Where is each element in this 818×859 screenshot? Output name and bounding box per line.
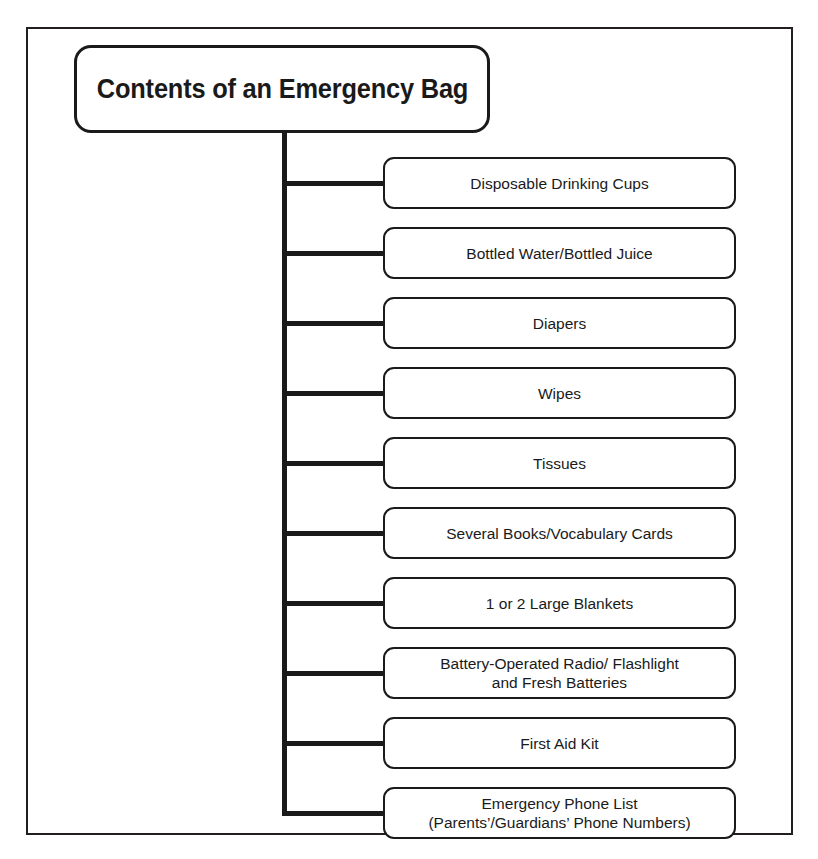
child-node-label: Several Books/Vocabulary Cards [438, 524, 681, 543]
root-node-label: Contents of an Emergency Bag [96, 74, 467, 105]
child-node-label: Tissues [525, 454, 594, 473]
connector-line [282, 601, 383, 606]
child-node[interactable]: Diapers [383, 297, 736, 349]
child-node-label: Diapers [525, 314, 594, 333]
child-node-label: Bottled Water/Bottled Juice [458, 244, 660, 263]
child-node-label: First Aid Kit [512, 734, 606, 753]
child-node[interactable]: 1 or 2 Large Blankets [383, 577, 736, 629]
connector-line [282, 391, 383, 396]
child-node[interactable]: Wipes [383, 367, 736, 419]
connector-line [282, 741, 383, 746]
child-node[interactable]: Bottled Water/Bottled Juice [383, 227, 736, 279]
child-node[interactable]: First Aid Kit [383, 717, 736, 769]
root-node-contents-of-an-emergency-bag[interactable]: Contents of an Emergency Bag [74, 45, 490, 133]
diagram-outer-border [26, 27, 793, 835]
connector-line [282, 321, 383, 326]
child-node[interactable]: Battery-Operated Radio/ Flashlight and F… [383, 647, 736, 699]
child-node-label: Battery-Operated Radio/ Flashlight and F… [432, 654, 687, 692]
child-node[interactable]: Tissues [383, 437, 736, 489]
child-node[interactable]: Several Books/Vocabulary Cards [383, 507, 736, 559]
child-node[interactable]: Disposable Drinking Cups [383, 157, 736, 209]
child-node-label: Emergency Phone List (Parents’/Guardians… [420, 794, 698, 832]
child-node-label: Disposable Drinking Cups [462, 174, 656, 193]
connector-line [282, 811, 383, 816]
connector-line [282, 461, 383, 466]
child-node[interactable]: Emergency Phone List (Parents’/Guardians… [383, 787, 736, 839]
child-node-label: 1 or 2 Large Blankets [478, 594, 641, 613]
child-node-label: Wipes [530, 384, 589, 403]
connector-line [282, 251, 383, 256]
connector-line [282, 181, 383, 186]
trunk-vertical-connector [282, 130, 287, 816]
connector-line [282, 671, 383, 676]
connector-line [282, 531, 383, 536]
diagram-canvas: Contents of an Emergency Bag Disposable … [0, 0, 818, 859]
